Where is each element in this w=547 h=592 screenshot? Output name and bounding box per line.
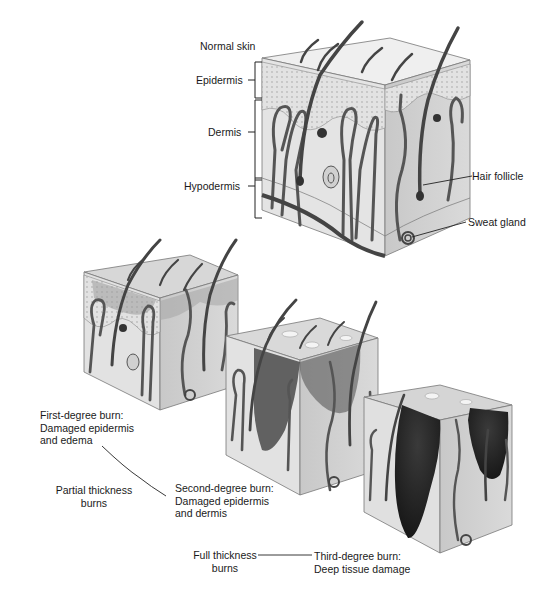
third-degree-block: [364, 385, 512, 553]
full-thickness-label: Full thickness burns: [190, 549, 260, 574]
first-degree-line3: and edema: [40, 434, 134, 447]
second-degree-line1: Second-degree burn:: [175, 482, 274, 495]
sweat-gland-label: Sweat gland: [468, 216, 526, 229]
hypodermis-label: Hypodermis: [184, 180, 240, 193]
second-degree-line3: and dermis: [175, 507, 274, 520]
partial-line2: burns: [44, 497, 144, 510]
dermis-label: Dermis: [208, 126, 241, 139]
hair-follicle-label: Hair follicle: [472, 170, 523, 183]
normal-skin-block: [262, 22, 470, 256]
normal-skin-title: Normal skin: [200, 40, 255, 53]
third-degree-line2: Deep tissue damage: [314, 563, 410, 576]
partial-line1: Partial thickness: [44, 484, 144, 497]
first-degree-block: [84, 240, 238, 410]
first-degree-line1: First-degree burn:: [40, 409, 134, 422]
full-line2: burns: [190, 562, 260, 575]
first-degree-line2: Damaged epidermis: [40, 422, 134, 435]
epidermis-label: Epidermis: [196, 74, 243, 87]
third-degree-label: Third-degree burn: Deep tissue damage: [314, 550, 410, 575]
full-line1: Full thickness: [190, 549, 260, 562]
partial-thickness-label: Partial thickness burns: [44, 484, 144, 509]
layer-brackets: [248, 62, 262, 218]
third-degree-line1: Third-degree burn:: [314, 550, 410, 563]
second-degree-label: Second-degree burn: Damaged epidermis an…: [175, 482, 274, 520]
first-degree-label: First-degree burn: Damaged epidermis and…: [40, 409, 134, 447]
second-degree-line2: Damaged epidermis: [175, 495, 274, 508]
second-degree-block: [226, 300, 378, 495]
